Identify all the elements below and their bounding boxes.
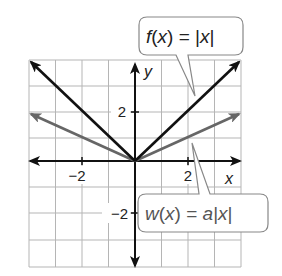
graph: 2 −2 −2 2 y x f(x) = |x| w(x) = a|x| bbox=[0, 0, 282, 276]
y-tick-label-2: 2 bbox=[118, 103, 126, 120]
x-tick-label-2: 2 bbox=[184, 167, 192, 184]
y-tick-label-neg2: −2 bbox=[111, 205, 128, 222]
y-axis-label: y bbox=[143, 63, 153, 80]
callout-f-text: f(x) = |x| bbox=[146, 26, 214, 47]
callout-f: f(x) = |x| bbox=[139, 17, 243, 96]
x-tick-label-neg2: −2 bbox=[68, 167, 85, 184]
x-axis-label: x bbox=[224, 170, 234, 187]
callout-w-text: w(x) = a|x| bbox=[145, 203, 233, 224]
